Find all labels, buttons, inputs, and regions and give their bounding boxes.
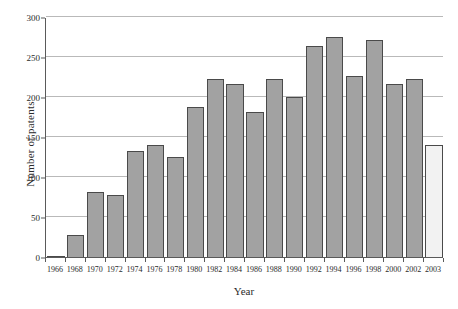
x-tick-mark [284, 258, 285, 262]
x-tick-mark [324, 258, 325, 262]
y-tick-mark [41, 178, 45, 179]
y-tick-label: 200 [0, 93, 40, 103]
x-tick-mark [224, 258, 225, 262]
x-tick-mark [304, 258, 305, 262]
x-tick-mark [85, 258, 86, 262]
bar-1972 [107, 195, 124, 257]
x-axis-title: Year [45, 285, 443, 297]
y-tick-label: 250 [0, 53, 40, 63]
bar-1976 [147, 145, 164, 257]
y-tick-label: 150 [0, 133, 40, 143]
bar-2002 [406, 79, 423, 257]
x-tick-mark [45, 258, 46, 262]
x-tick-mark [204, 258, 205, 262]
bar-1974 [127, 151, 144, 257]
x-tick-mark [65, 258, 66, 262]
x-tick-mark [443, 258, 444, 262]
bar-2000 [386, 84, 403, 257]
bar-1994 [326, 37, 343, 257]
x-tick-mark [383, 258, 384, 262]
y-tick-label: 0 [0, 253, 40, 263]
y-tick-label: 50 [0, 213, 40, 223]
y-tick-mark [41, 58, 45, 59]
x-tick-mark [184, 258, 185, 262]
plot-area [45, 18, 443, 258]
x-tick-mark [264, 258, 265, 262]
y-axis-title: Number of patents [24, 64, 36, 224]
x-tick-mark [145, 258, 146, 262]
bar-chart: Number of patents 050100150200250300 196… [0, 0, 458, 309]
x-tick-mark [105, 258, 106, 262]
bar-1992 [306, 46, 323, 257]
y-tick-mark [41, 98, 45, 99]
bar-1984 [226, 84, 243, 257]
bar-1980 [187, 107, 204, 257]
bar-1966 [47, 256, 64, 257]
x-tick-mark [403, 258, 404, 262]
y-tick-label: 100 [0, 173, 40, 183]
gridline [46, 16, 443, 17]
y-tick-label: 300 [0, 13, 40, 23]
y-tick-mark [41, 218, 45, 219]
bar-1996 [346, 76, 363, 257]
bar-1970 [87, 192, 104, 257]
x-tick-mark [164, 258, 165, 262]
x-tick-mark [125, 258, 126, 262]
bar-1982 [207, 79, 224, 257]
x-tick-mark [244, 258, 245, 262]
y-tick-mark [41, 18, 45, 19]
y-tick-mark [41, 138, 45, 139]
bar-1986 [246, 112, 263, 257]
x-tick-label: 2003 [413, 265, 453, 274]
x-tick-mark [363, 258, 364, 262]
x-axis-ticks: 1966196819701972197419761978198019821984… [45, 258, 443, 284]
bar-1990 [286, 97, 303, 257]
x-tick-mark [423, 258, 424, 262]
x-tick-mark [344, 258, 345, 262]
bar-2003 [425, 145, 442, 257]
bar-1968 [67, 235, 84, 257]
bar-1978 [167, 157, 184, 257]
bar-1988 [266, 79, 283, 257]
bar-1998 [366, 40, 383, 257]
bar-series [46, 18, 443, 257]
